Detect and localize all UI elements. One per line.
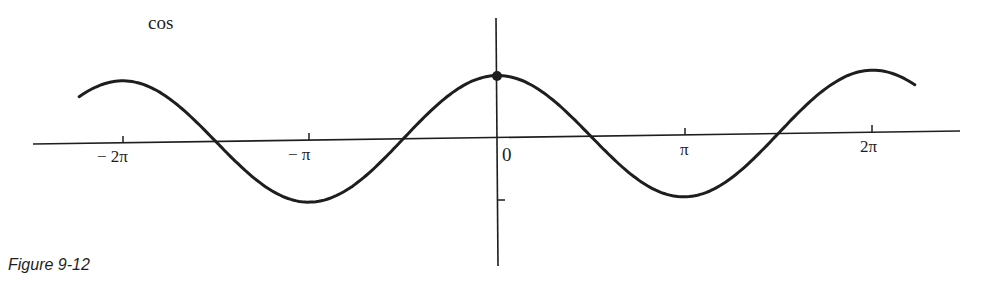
plot-canvas bbox=[0, 0, 993, 289]
tick-label-neg-2pi: − 2π bbox=[97, 147, 128, 167]
figure-caption: Figure 9-12 bbox=[8, 256, 90, 274]
tick-label-zero: 0 bbox=[502, 144, 512, 166]
function-label: cos bbox=[148, 12, 173, 34]
tick-label-pi: π bbox=[680, 140, 689, 160]
point-0-1 bbox=[492, 71, 502, 81]
tick-label-2pi: 2π bbox=[860, 137, 877, 157]
y-axis bbox=[496, 18, 498, 266]
cos-graph-figure: cos − 2π − π 0 π 2π Figure 9-12 bbox=[0, 0, 993, 289]
tick-label-neg-pi: − π bbox=[288, 145, 310, 165]
